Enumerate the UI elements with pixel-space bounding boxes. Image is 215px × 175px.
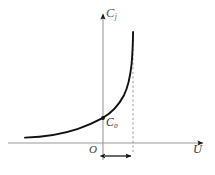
c0-label: C0 (106, 117, 118, 129)
y-axis-label: Cj (106, 7, 117, 20)
origin-label: O (89, 144, 97, 155)
c0-label-text: C (106, 116, 114, 128)
capacitance-voltage-figure: Cj U O C0 (0, 0, 215, 175)
c0-label-subscript: 0 (114, 122, 118, 130)
y-axis-label-subscript: j (114, 12, 116, 21)
c0-point-marker (101, 116, 105, 120)
x-axis-label: U (193, 143, 202, 156)
plot-canvas (0, 0, 215, 175)
